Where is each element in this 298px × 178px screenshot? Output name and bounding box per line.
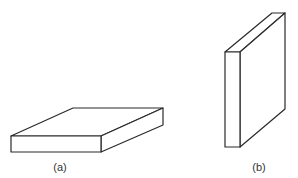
slab-horizontal: (a)	[11, 108, 163, 173]
diagram-canvas: (a) (b)	[0, 0, 298, 178]
slab-b-front-face	[225, 52, 240, 147]
slab-b-side-face	[240, 13, 285, 147]
slab-vertical: (b)	[225, 13, 285, 173]
slab-a-front-face	[11, 136, 101, 152]
panel-label-b: (b)	[252, 161, 265, 173]
panel-label-a: (a)	[53, 161, 66, 173]
